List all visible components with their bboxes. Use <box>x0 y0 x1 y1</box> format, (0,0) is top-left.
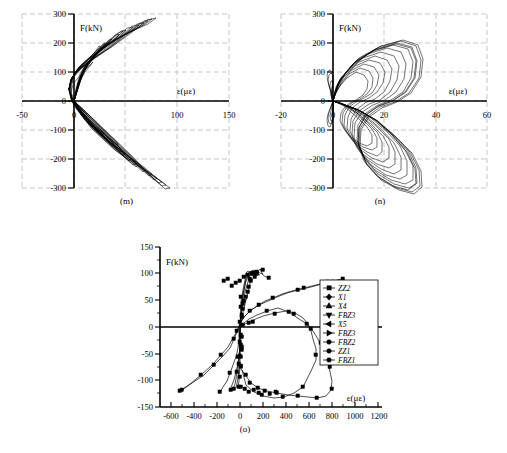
ytick-200-m: 200 <box>53 38 66 48</box>
legend-label-x5: X5 <box>337 320 347 329</box>
legend-label-x1: X1 <box>337 293 346 302</box>
ytick-m100-n: -100 <box>309 125 325 135</box>
xtick-40-n: 40 <box>432 110 441 120</box>
xtick-m600-o: -600 <box>163 411 179 421</box>
square-icon <box>327 286 331 290</box>
ytick-m100-m: -100 <box>50 125 66 135</box>
ytick-300-n: 300 <box>312 9 325 19</box>
xtick-400-o: 400 <box>280 411 293 421</box>
legend-label-fbz2: FBZ2 <box>337 338 356 347</box>
xtick-100-m: 100 <box>171 110 184 120</box>
ytick-m300-m: -300 <box>50 183 66 193</box>
ytick-200-n: 200 <box>312 38 325 48</box>
panel-m: 300 200 100 0 -100 -200 -300 -50 0 100 1… <box>0 0 253 230</box>
panel-n: 300 200 100 0 -100 -200 -300 -20 0 20 40… <box>253 0 507 230</box>
ytick-0-o: 0 <box>149 322 153 332</box>
legend-label-fbz1: FBZ1 <box>337 356 355 365</box>
ytick-300-m: 300 <box>53 9 66 19</box>
ytick-m300-n: -300 <box>309 183 325 193</box>
legend-label-x4: X4 <box>337 302 347 311</box>
xtick-150-m: 150 <box>223 110 236 120</box>
ytick-0-m: 0 <box>62 96 66 106</box>
xtick-600-o: 600 <box>303 411 316 421</box>
legend-o[interactable]: ZZ2 X1 X4 FBZ3 X5 <box>320 280 378 365</box>
xlabel-n: ε(με) <box>449 86 467 96</box>
ylabel-m: F(kN) <box>80 23 102 33</box>
legend-label-zz1: ZZ1 <box>338 347 350 356</box>
ytick-100-m: 100 <box>53 67 66 77</box>
ytick-0-n: 0 <box>321 96 325 106</box>
caption-o: (o) <box>120 424 370 434</box>
panel-o: 150 100 50 0 -50 -100 -150 -600 -400 -20… <box>120 235 390 453</box>
curve-markers-o <box>178 268 344 399</box>
xtick-0-n: 0 <box>331 110 335 120</box>
ytick-100-o: 100 <box>140 268 153 278</box>
xtick-0-m: 0 <box>72 110 76 120</box>
caption-n: (n) <box>253 196 507 206</box>
ylabel-o: F(kN) <box>166 257 188 267</box>
xtick-m50-m: -50 <box>16 110 27 120</box>
legend-label-zz2: ZZ2 <box>338 284 350 293</box>
circle-icon <box>327 349 332 354</box>
hysteresis-curves-m <box>69 18 170 189</box>
circle-icon <box>327 340 332 345</box>
ytick-50-o: 50 <box>145 295 154 305</box>
xtick-800-o: 800 <box>326 411 339 421</box>
xtick-200-o: 200 <box>257 411 270 421</box>
ylabel-n: F(kN) <box>339 23 361 33</box>
xtick-20-n: 20 <box>380 110 389 120</box>
xtick-1000-o: 1000 <box>347 411 364 421</box>
legend-label-fbz3-b: FBZ3 <box>337 329 356 338</box>
xtick-m400-o: -400 <box>186 411 202 421</box>
hysteresis-curves-n <box>327 40 423 194</box>
xtick-1200-o: 1200 <box>371 411 388 421</box>
ytick-m200-n: -200 <box>309 154 325 164</box>
ytick-m100-o: -100 <box>137 375 153 385</box>
xtick-60-n: 60 <box>483 110 492 120</box>
caption-m: (m) <box>0 196 253 206</box>
xtick-m200-o: -200 <box>209 411 225 421</box>
xtick-0-o: 0 <box>238 411 242 421</box>
ytick-m150-o: -150 <box>137 402 153 412</box>
xlabel-m: ε(με) <box>177 86 195 96</box>
ytick-m50-o: -50 <box>142 349 153 359</box>
xlabel-o: ε(με) <box>347 393 365 403</box>
panel-n-plot: 300 200 100 0 -100 -200 -300 -20 0 20 40… <box>253 0 507 205</box>
panel-m-plot: 300 200 100 0 -100 -200 -300 -50 0 100 1… <box>0 0 253 205</box>
legend-label-fbz3-a: FBZ3 <box>337 311 356 320</box>
circle-icon <box>327 358 332 363</box>
ytick-m200-m: -200 <box>50 154 66 164</box>
ytick-150-o: 150 <box>140 242 153 252</box>
ytick-100-n: 100 <box>312 67 325 77</box>
skeleton-curves-o <box>180 269 343 398</box>
panel-o-plot: 150 100 50 0 -50 -100 -150 -600 -400 -20… <box>120 235 390 435</box>
xtick-m20-n: -20 <box>275 110 286 120</box>
